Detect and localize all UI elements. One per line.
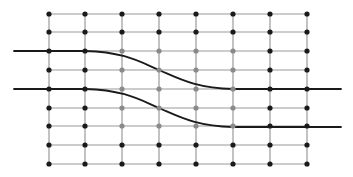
grid-node [304, 29, 309, 34]
grid-node [230, 161, 235, 166]
grid-node [119, 11, 124, 16]
grid-node [46, 48, 51, 53]
grid-node-highlighted [156, 105, 161, 110]
grid-node [156, 142, 161, 147]
grid-node [304, 123, 309, 128]
grid-node [304, 86, 309, 91]
grid-node-highlighted [156, 67, 161, 72]
grid-node-highlighted [230, 86, 235, 91]
grid-node [46, 11, 51, 16]
grid-node [46, 105, 51, 110]
grid-node [267, 11, 272, 16]
grid-node [267, 29, 272, 34]
grid-node-highlighted [156, 123, 161, 128]
grid-node-highlighted [119, 105, 124, 110]
grid-node [82, 123, 87, 128]
grid-node [82, 142, 87, 147]
grid-node [82, 11, 87, 16]
grid-curve-diagram [0, 0, 353, 177]
grid-node [193, 161, 198, 166]
grid-node-highlighted [230, 48, 235, 53]
grid-node-highlighted [230, 123, 235, 128]
grid-node [82, 67, 87, 72]
grid-node [193, 142, 198, 147]
grid-node [82, 29, 87, 34]
grid-node [119, 161, 124, 166]
grid-node [267, 161, 272, 166]
grid-node-highlighted [193, 67, 198, 72]
grid-node [119, 142, 124, 147]
grid-node [267, 48, 272, 53]
grid-node [46, 142, 51, 147]
grid-node-highlighted [193, 123, 198, 128]
grid-node [82, 48, 87, 53]
grid-node-highlighted [193, 105, 198, 110]
grid-node-highlighted [119, 48, 124, 53]
grid-node [304, 67, 309, 72]
grid-node-highlighted [193, 48, 198, 53]
grid-node [46, 29, 51, 34]
grid-node [156, 29, 161, 34]
grid-node-highlighted [230, 67, 235, 72]
grid-node [267, 67, 272, 72]
grid-node-highlighted [193, 86, 198, 91]
grid-node [156, 161, 161, 166]
grid-node [46, 161, 51, 166]
grid-node [304, 11, 309, 16]
grid-node [267, 123, 272, 128]
grid-node [230, 29, 235, 34]
grid-node-highlighted [119, 123, 124, 128]
grid-node [46, 86, 51, 91]
grid-node [119, 29, 124, 34]
grid-node [193, 11, 198, 16]
grid-node [193, 29, 198, 34]
grid-node [304, 105, 309, 110]
grid-node-highlighted [119, 86, 124, 91]
grid-node-highlighted [156, 48, 161, 53]
grid-node-highlighted [119, 67, 124, 72]
grid-node [46, 123, 51, 128]
grid-node [46, 67, 51, 72]
grid-node [304, 161, 309, 166]
grid-node [230, 142, 235, 147]
grid-node [82, 105, 87, 110]
grid-node [267, 142, 272, 147]
grid-node [304, 142, 309, 147]
grid-node-highlighted [156, 86, 161, 91]
grid-node [230, 11, 235, 16]
grid-node [304, 48, 309, 53]
grid-node [82, 86, 87, 91]
grid-node [82, 161, 87, 166]
grid-node [267, 86, 272, 91]
grid-node-highlighted [230, 105, 235, 110]
grid-node [267, 105, 272, 110]
grid-node [156, 11, 161, 16]
